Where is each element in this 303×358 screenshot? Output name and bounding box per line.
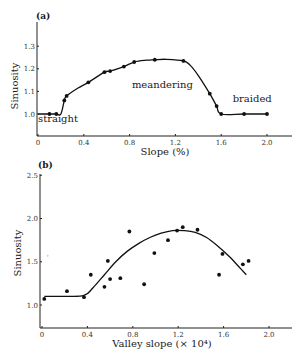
y-tick-label: 1.0 bbox=[24, 111, 35, 119]
y-tick-label: 2.5 bbox=[27, 172, 38, 180]
x-tick-label: 0 bbox=[40, 331, 44, 339]
regime-annotation: meandering bbox=[132, 79, 194, 90]
data-point bbox=[175, 229, 179, 233]
data-point bbox=[89, 273, 93, 277]
data-point bbox=[181, 225, 185, 229]
panel-a-label: (a) bbox=[36, 11, 50, 21]
y-tick-label: 1.3 bbox=[24, 43, 35, 51]
data-point bbox=[103, 285, 107, 289]
data-point bbox=[108, 277, 112, 281]
data-point bbox=[82, 295, 86, 299]
data-point bbox=[142, 282, 146, 286]
x-tick-label: 1.2 bbox=[173, 331, 184, 339]
data-point bbox=[103, 70, 107, 74]
data-point bbox=[132, 60, 136, 64]
data-point bbox=[65, 94, 69, 98]
y-tick-label: 2.0 bbox=[27, 215, 38, 223]
data-point bbox=[217, 273, 221, 277]
y-tick-label: 1.0 bbox=[27, 302, 38, 310]
regime-annotation: braided bbox=[233, 93, 273, 104]
data-point bbox=[122, 65, 126, 69]
data-point bbox=[152, 251, 156, 255]
data-point bbox=[196, 228, 200, 232]
data-point bbox=[153, 58, 157, 62]
data-point bbox=[108, 69, 112, 73]
data-point bbox=[215, 104, 219, 108]
panel-b-label: (b) bbox=[38, 160, 53, 170]
panel-b-axes: 00.40.81.21.62.01.01.52.02.5 bbox=[27, 172, 292, 339]
data-point bbox=[182, 59, 186, 63]
trend-curve bbox=[44, 230, 246, 296]
data-point bbox=[106, 259, 110, 263]
x-tick-label: 2.0 bbox=[263, 331, 274, 339]
panel-a-y-axis-title: Sinuosity bbox=[9, 62, 20, 109]
data-point bbox=[118, 276, 122, 280]
x-tick-label: 1.2 bbox=[170, 139, 181, 147]
data-point bbox=[241, 262, 245, 266]
data-point bbox=[62, 99, 66, 103]
scan-speck bbox=[47, 255, 49, 257]
panel-a-annotations: straightmeanderingbraided bbox=[38, 79, 272, 124]
data-point bbox=[219, 112, 223, 116]
data-point bbox=[166, 238, 170, 242]
panel-b-sinuosity-vs-valley-slope: (b) Sinuosity Valley slope (× 10⁴) 00.40… bbox=[12, 160, 292, 349]
x-tick-label: 2.0 bbox=[261, 139, 272, 147]
panel-a-x-axis-title: Slope (%) bbox=[141, 146, 190, 157]
x-tick-label: 0.8 bbox=[124, 139, 135, 147]
y-tick-label: 1.2 bbox=[24, 65, 35, 73]
data-point bbox=[42, 297, 46, 301]
panel-b-plot-area bbox=[42, 225, 250, 301]
x-tick-label: 1.6 bbox=[216, 139, 228, 147]
figure: (a) Sinuosity Slope (%) 00.40.81.21.62.0… bbox=[0, 0, 303, 358]
panel-b-y-axis-title: Sinuosity bbox=[12, 229, 23, 276]
panel-b-x-axis-title: Valley slope (× 10⁴) bbox=[111, 338, 211, 349]
x-tick-label: 0.4 bbox=[82, 331, 94, 339]
y-tick-label: 1.1 bbox=[24, 88, 35, 96]
data-point bbox=[242, 112, 246, 116]
data-point bbox=[208, 92, 212, 96]
x-tick-label: 1.6 bbox=[218, 331, 230, 339]
x-tick-label: 0.4 bbox=[78, 139, 90, 147]
data-point bbox=[247, 259, 251, 263]
regime-annotation: straight bbox=[38, 113, 78, 124]
data-point bbox=[127, 230, 131, 234]
x-tick-label: 0.8 bbox=[127, 331, 138, 339]
data-point bbox=[65, 289, 69, 293]
y-tick-label: 1.5 bbox=[27, 258, 38, 266]
x-tick-label: 0 bbox=[36, 139, 40, 147]
data-point bbox=[86, 80, 90, 84]
data-point bbox=[221, 252, 225, 256]
data-point bbox=[265, 112, 269, 116]
panel-a-sinuosity-vs-slope: (a) Sinuosity Slope (%) 00.40.81.21.62.0… bbox=[9, 11, 292, 157]
